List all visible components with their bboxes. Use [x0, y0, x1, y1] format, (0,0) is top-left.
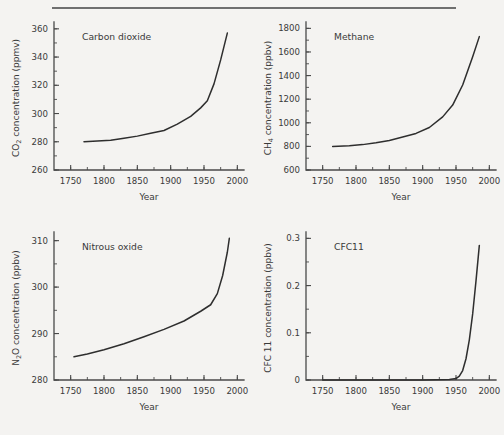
svg-text:1750: 1750: [60, 386, 82, 396]
svg-text:1750: 1750: [312, 176, 334, 186]
svg-text:1800: 1800: [93, 176, 115, 186]
svg-text:CO2 concentration (ppmv): CO2 concentration (ppmv): [11, 39, 23, 157]
chart-panel-methane: 6008001000120014001600180017501800185019…: [252, 12, 504, 225]
svg-text:Year: Year: [390, 402, 410, 412]
svg-text:1000: 1000: [278, 118, 300, 128]
svg-text:Year: Year: [138, 402, 158, 412]
carbon-dioxide-plot: 2602803003203403601750180018501900195020…: [0, 12, 252, 225]
svg-text:1200: 1200: [278, 94, 300, 104]
svg-text:1950: 1950: [193, 176, 215, 186]
svg-text:1400: 1400: [278, 71, 300, 81]
svg-text:1800: 1800: [278, 23, 300, 33]
svg-text:600: 600: [284, 165, 300, 175]
svg-text:1750: 1750: [60, 176, 82, 186]
svg-text:0: 0: [295, 375, 300, 385]
svg-text:1900: 1900: [160, 176, 182, 186]
svg-text:Carbon dioxide: Carbon dioxide: [82, 31, 152, 42]
svg-text:Year: Year: [390, 192, 410, 202]
svg-text:Year: Year: [138, 192, 158, 202]
svg-text:CFC11: CFC11: [334, 241, 364, 252]
svg-text:CH4 concentration (ppbv): CH4 concentration (ppbv): [263, 41, 275, 156]
svg-text:0.3: 0.3: [286, 233, 300, 243]
svg-text:0.1: 0.1: [286, 328, 300, 338]
svg-text:CFC 11 concentration (ppbv): CFC 11 concentration (ppbv): [263, 243, 273, 373]
methane-plot: 6008001000120014001600180017501800185019…: [252, 12, 504, 225]
svg-text:1750: 1750: [312, 386, 334, 396]
svg-text:1800: 1800: [345, 176, 367, 186]
svg-text:1900: 1900: [412, 176, 434, 186]
svg-text:1850: 1850: [378, 176, 400, 186]
svg-text:Methane: Methane: [334, 31, 374, 42]
svg-text:0.2: 0.2: [286, 281, 300, 291]
svg-text:2000: 2000: [226, 386, 248, 396]
svg-text:290: 290: [32, 329, 48, 339]
svg-text:260: 260: [32, 165, 48, 175]
svg-text:1800: 1800: [93, 386, 115, 396]
svg-text:1600: 1600: [278, 47, 300, 57]
svg-text:360: 360: [32, 24, 48, 34]
svg-text:1900: 1900: [412, 386, 434, 396]
chart-panel-nitrous-oxide: 280290300310175018001850190019502000Year…: [0, 222, 252, 435]
header-rule: [52, 7, 456, 9]
svg-text:1950: 1950: [193, 386, 215, 396]
svg-text:800: 800: [284, 141, 300, 151]
svg-text:320: 320: [32, 80, 48, 90]
svg-text:280: 280: [32, 375, 48, 385]
svg-text:300: 300: [32, 282, 48, 292]
svg-text:2000: 2000: [226, 176, 248, 186]
svg-text:300: 300: [32, 109, 48, 119]
svg-text:2000: 2000: [478, 386, 500, 396]
nitrous-oxide-plot: 280290300310175018001850190019502000Year…: [0, 222, 252, 435]
svg-text:280: 280: [32, 137, 48, 147]
svg-text:1850: 1850: [378, 386, 400, 396]
svg-text:N2O concentration (ppbv): N2O concentration (ppbv): [11, 250, 23, 365]
svg-text:340: 340: [32, 52, 48, 62]
svg-text:1850: 1850: [126, 176, 148, 186]
chart-panel-carbon-dioxide: 2602803003203403601750180018501900195020…: [0, 12, 252, 225]
svg-text:Nitrous oxide: Nitrous oxide: [82, 241, 143, 252]
svg-text:1950: 1950: [445, 386, 467, 396]
svg-text:2000: 2000: [478, 176, 500, 186]
svg-text:1900: 1900: [160, 386, 182, 396]
svg-text:1950: 1950: [445, 176, 467, 186]
chart-panel-cfc11: 00.10.20.3175018001850190019502000YearCF…: [252, 222, 504, 435]
cfc11-plot: 00.10.20.3175018001850190019502000YearCF…: [252, 222, 504, 435]
svg-text:1850: 1850: [126, 386, 148, 396]
svg-text:1800: 1800: [345, 386, 367, 396]
svg-text:310: 310: [32, 236, 48, 246]
